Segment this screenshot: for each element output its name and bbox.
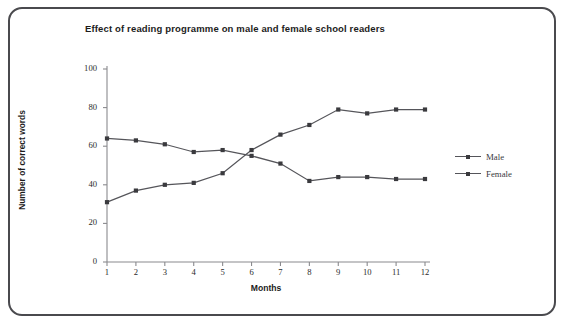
x-tick-label: 5 <box>213 267 233 277</box>
y-tick-label: 100 <box>63 63 97 73</box>
x-tick-label: 4 <box>184 267 204 277</box>
legend-label: Male <box>486 152 504 162</box>
y-tick-label: 0 <box>63 256 97 266</box>
y-axis-title: Number of correct words <box>17 95 27 225</box>
data-point-marker <box>423 107 427 111</box>
data-point-marker <box>105 200 109 204</box>
series-line <box>107 138 425 180</box>
x-tick-label: 3 <box>155 267 175 277</box>
data-point-marker <box>134 188 138 192</box>
data-point-marker <box>192 150 196 154</box>
y-tick-label: 80 <box>63 102 97 112</box>
data-point-marker <box>278 161 282 165</box>
x-tick-label: 11 <box>386 267 406 277</box>
data-point-marker <box>192 181 196 185</box>
axes-group <box>107 66 430 262</box>
data-point-marker <box>394 177 398 181</box>
x-tick-label: 1 <box>97 267 117 277</box>
x-tick-marks <box>107 262 425 266</box>
x-tick-label: 7 <box>270 267 290 277</box>
data-point-marker <box>336 175 340 179</box>
x-axis-title: Months <box>107 283 425 293</box>
data-point-marker <box>249 148 253 152</box>
data-point-marker <box>134 138 138 142</box>
data-point-marker <box>394 107 398 111</box>
data-point-marker <box>221 148 225 152</box>
data-point-marker <box>163 142 167 146</box>
y-tick-label: 20 <box>63 217 97 227</box>
y-tick-label: 60 <box>63 140 97 150</box>
data-point-marker <box>105 136 109 140</box>
legend-item-male[interactable]: Male <box>455 148 545 165</box>
data-point-marker <box>307 123 311 127</box>
legend-swatch-icon <box>455 152 481 162</box>
x-tick-label: 10 <box>357 267 377 277</box>
data-point-marker <box>423 177 427 181</box>
x-tick-label: 2 <box>126 267 146 277</box>
x-tick-label: 9 <box>328 267 348 277</box>
x-tick-label: 8 <box>299 267 319 277</box>
x-tick-label: 6 <box>242 267 262 277</box>
data-point-marker <box>249 154 253 158</box>
data-point-marker <box>365 175 369 179</box>
data-point-marker <box>163 183 167 187</box>
legend-swatch-icon <box>455 169 481 179</box>
x-tick-label: 12 <box>415 267 435 277</box>
data-point-marker <box>365 111 369 115</box>
y-tick-marks <box>103 69 107 262</box>
y-tick-label: 40 <box>63 179 97 189</box>
data-point-marker <box>221 171 225 175</box>
series-male <box>105 107 427 204</box>
data-point-marker <box>307 179 311 183</box>
data-point-marker <box>278 133 282 137</box>
chart-title: Effect of reading programme on male and … <box>0 23 470 34</box>
chart-plot-area: Effect of reading programme on male and … <box>0 0 569 330</box>
series-line <box>107 110 425 203</box>
data-point-marker <box>336 107 340 111</box>
chart-legend: MaleFemale <box>455 148 545 182</box>
legend-label: Female <box>486 169 512 179</box>
legend-item-female[interactable]: Female <box>455 165 545 182</box>
series-female <box>105 136 427 183</box>
data-series-group <box>105 107 427 204</box>
